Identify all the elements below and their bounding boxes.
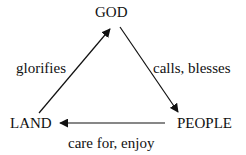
node-people: PEOPLE <box>177 115 232 131</box>
node-god: GOD <box>95 4 128 20</box>
diagram-arrows <box>0 0 246 155</box>
edge-label-glorifies: glorifies <box>16 60 66 76</box>
node-land: LAND <box>10 115 52 131</box>
edge-label-calls-blesses: calls, blesses <box>153 60 230 76</box>
edge-label-care-for-enjoy: care for, enjoy <box>68 135 154 151</box>
